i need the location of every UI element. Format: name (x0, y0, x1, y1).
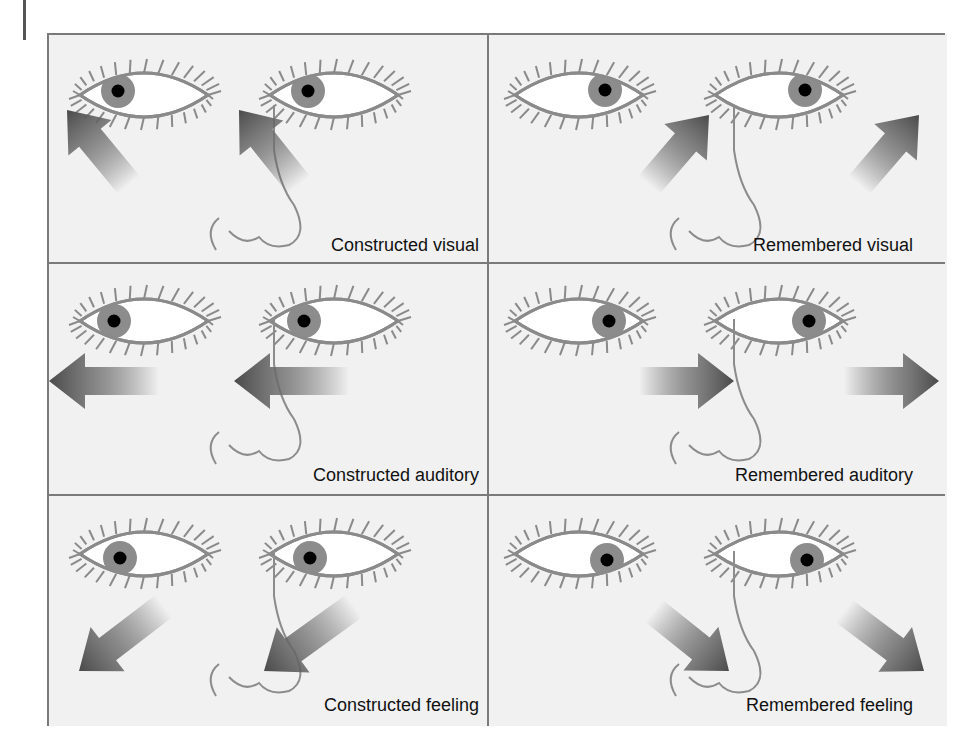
eye-icon (69, 285, 221, 356)
eye-icon (259, 285, 411, 356)
face-down-right-icon (489, 496, 929, 726)
face-down-left-icon (49, 496, 489, 726)
eye-icon (504, 59, 656, 130)
cell-remembered-auditory: Remembered auditory (489, 264, 929, 494)
cell-label: Remembered feeling (746, 695, 913, 716)
margin-bar (23, 0, 26, 40)
cell-remembered-feeling: Remembered feeling (489, 496, 929, 726)
gaze-arrow-icon (638, 115, 709, 194)
cell-label: Remembered visual (753, 235, 913, 256)
eye-icon (504, 285, 656, 356)
gaze-arrow-icon (844, 353, 939, 409)
gaze-arrow-icon (645, 600, 729, 671)
eye-icon (704, 59, 856, 130)
gaze-arrow-icon (264, 595, 362, 673)
gaze-arrow-icon (67, 110, 140, 194)
gaze-arrow-icon (848, 115, 919, 194)
eye-icon (704, 285, 856, 356)
gaze-arrow-icon (639, 353, 734, 409)
cell-label: Constructed auditory (313, 465, 479, 486)
gaze-arrow-icon (234, 353, 349, 409)
cell-constructed-feeling: Constructed feeling (49, 496, 489, 726)
eye-icon (259, 518, 411, 589)
face-right-icon (489, 264, 929, 494)
cell-constructed-auditory: Constructed auditory (49, 264, 489, 494)
eye-icon (259, 59, 411, 130)
gaze-arrow-icon (836, 600, 924, 672)
cell-label: Constructed visual (331, 235, 479, 256)
cell-remembered-visual: Remembered visual (489, 35, 929, 262)
face-up-left-icon (49, 35, 489, 262)
cell-constructed-visual: Constructed visual (49, 35, 489, 262)
gaze-arrow-icon (239, 110, 310, 194)
gaze-arrow-icon (49, 353, 159, 409)
face-up-right-icon (489, 35, 929, 262)
eye-icon (69, 518, 221, 589)
eye-icon (704, 518, 856, 589)
cell-label: Remembered auditory (735, 465, 913, 486)
eye-icon (504, 518, 656, 589)
face-left-icon (49, 264, 489, 494)
gaze-arrow-icon (79, 595, 173, 671)
cell-label: Constructed feeling (324, 695, 479, 716)
